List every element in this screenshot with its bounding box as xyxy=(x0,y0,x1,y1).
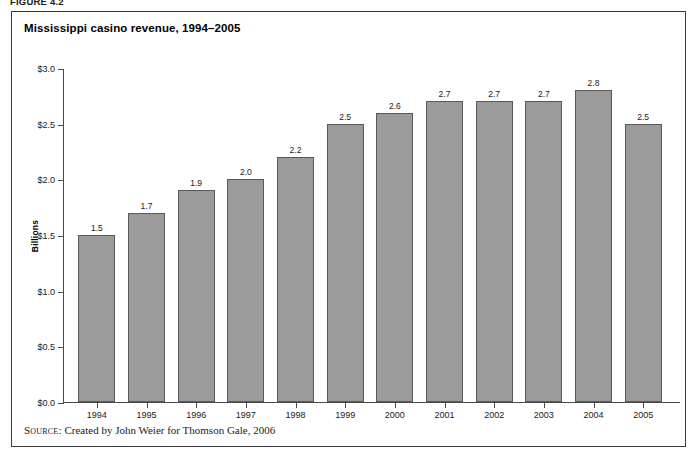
bar-rect[interactable] xyxy=(575,90,612,402)
y-tick-mark xyxy=(58,347,64,348)
plot-area: Billions $0.0$0.5$1.0$1.5$2.0$2.5$3.0 1.… xyxy=(63,69,680,403)
figure-frame: Mississippi casino revenue, 1994–2005 Bi… xyxy=(11,11,686,447)
x-axis-label: 1997 xyxy=(227,410,264,420)
y-tick-label: $0.0 xyxy=(37,398,55,408)
bar-rect[interactable] xyxy=(78,235,115,402)
bar-value-label: 2.5 xyxy=(327,112,364,122)
x-axis-label: 2005 xyxy=(625,410,662,420)
x-axis-label: 1994 xyxy=(78,410,115,420)
x-tick-mark xyxy=(296,403,297,408)
x-tick-mark xyxy=(196,403,197,408)
chart-title: Mississippi casino revenue, 1994–2005 xyxy=(24,22,241,34)
y-tick-label: $0.5 xyxy=(37,342,55,352)
x-axis-label: 2004 xyxy=(575,410,612,420)
x-tick-mark xyxy=(594,403,595,408)
bar-value-label: 1.9 xyxy=(178,178,215,188)
bar-rect[interactable] xyxy=(327,124,364,402)
x-axis-label: 2000 xyxy=(376,410,413,420)
bar-value-label: 2.0 xyxy=(227,167,264,177)
x-tick-mark xyxy=(395,403,396,408)
x-axis-label: 2001 xyxy=(426,410,463,420)
x-tick-mark xyxy=(544,403,545,408)
y-tick-mark xyxy=(58,69,64,70)
bar-value-label: 2.6 xyxy=(376,101,413,111)
x-axis-label: 2002 xyxy=(476,410,513,420)
x-axis-label: 1996 xyxy=(178,410,215,420)
source-note: Source: Created by John Weier for Thomso… xyxy=(24,424,275,436)
x-tick-mark xyxy=(445,403,446,408)
bar-rect[interactable] xyxy=(476,101,513,402)
bar-value-label: 1.5 xyxy=(78,223,115,233)
bar-value-label: 2.8 xyxy=(575,78,612,88)
bar-rect[interactable] xyxy=(625,124,662,402)
bar-rect[interactable] xyxy=(525,101,562,402)
x-tick-mark xyxy=(345,403,346,408)
bar-rect[interactable] xyxy=(128,213,165,402)
source-label: Source: xyxy=(24,424,62,436)
x-axis-label: 1998 xyxy=(277,410,314,420)
y-tick-mark xyxy=(58,180,64,181)
x-axis-line xyxy=(63,402,680,403)
x-axis-label: 1995 xyxy=(128,410,165,420)
bar-value-label: 2.7 xyxy=(426,89,463,99)
bar-value-label: 1.7 xyxy=(128,201,165,211)
x-tick-mark xyxy=(246,403,247,408)
bar-value-label: 2.2 xyxy=(277,145,314,155)
y-tick-mark xyxy=(58,125,64,126)
x-tick-mark xyxy=(643,403,644,408)
bar-value-label: 2.5 xyxy=(625,112,662,122)
x-tick-mark xyxy=(97,403,98,408)
bar-value-label: 2.7 xyxy=(476,89,513,99)
bar-value-label: 2.7 xyxy=(525,89,562,99)
bar-rect[interactable] xyxy=(178,190,215,402)
bar-rect[interactable] xyxy=(277,157,314,402)
x-axis-label: 1999 xyxy=(327,410,364,420)
y-tick-label: $1.5 xyxy=(37,231,55,241)
bar-rect[interactable] xyxy=(376,113,413,402)
y-tick-mark xyxy=(58,292,64,293)
y-tick-label: $3.0 xyxy=(37,64,55,74)
y-tick-label: $2.5 xyxy=(37,120,55,130)
y-tick-mark xyxy=(58,403,64,404)
x-axis-label: 2003 xyxy=(525,410,562,420)
source-text: Created by John Weier for Thomson Gale, … xyxy=(64,424,275,436)
y-tick-mark xyxy=(58,236,64,237)
bar-rect[interactable] xyxy=(227,179,264,402)
x-tick-mark xyxy=(147,403,148,408)
bar-rect[interactable] xyxy=(426,101,463,402)
x-tick-mark xyxy=(494,403,495,408)
y-tick-label: $2.0 xyxy=(37,175,55,185)
y-tick-label: $1.0 xyxy=(37,287,55,297)
figure-number-label: FIGURE 4.2 xyxy=(10,0,64,7)
